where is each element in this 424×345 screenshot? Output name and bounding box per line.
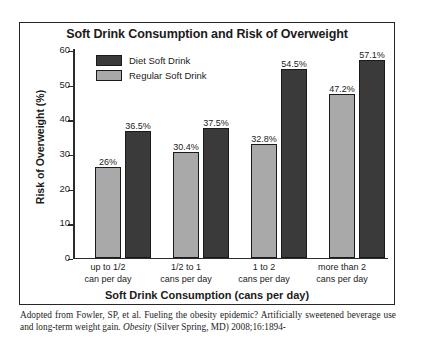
citation-line-1: Adopted from Fowler, SP, et al. Fueling … <box>20 310 344 320</box>
x-category-2: 1 to 2 cans per day <box>221 262 307 285</box>
bar-label-regular-2: 32.8% <box>251 134 277 144</box>
plot-area: 0 10 20 30 40 50 60 26% 36.5% 30.4% 37.5… <box>73 49 388 259</box>
x-axis-title: Soft Drink Consumption (cans per day) <box>20 289 394 301</box>
x-category-0-line1: up to 1/2 <box>65 262 151 274</box>
bar-diet-1[interactable]: 37.5% <box>203 128 229 258</box>
bar-regular-1[interactable]: 30.4% <box>173 152 199 257</box>
x-category-0-line2: can per day <box>65 274 151 286</box>
citation-journal-name: Obesity <box>123 322 151 332</box>
y-axis-line <box>73 49 75 259</box>
bar-diet-3[interactable]: 57.1% <box>359 60 385 258</box>
x-axis-line <box>73 258 388 260</box>
x-category-1: 1/2 to 1 cans per day <box>143 262 229 285</box>
bar-regular-3[interactable]: 47.2% <box>329 94 355 258</box>
source-citation: Adopted from Fowler, SP, et al. Fueling … <box>20 310 396 333</box>
bar-label-diet-0: 36.5% <box>125 121 151 131</box>
bar-label-diet-3: 57.1% <box>359 50 385 60</box>
x-category-3: more than 2 cans per day <box>299 262 385 285</box>
x-category-3-line2: cans per day <box>299 274 385 286</box>
x-category-1-line2: cans per day <box>143 274 229 286</box>
x-axis-category-labels: up to 1/2 can per day 1/2 to 1 cans per … <box>73 262 388 292</box>
citation-line-2-post: (Silver Spring, MD) 2008;16:1894- <box>151 322 286 332</box>
chart-title: Soft Drink Consumption and Risk of Overw… <box>20 27 394 41</box>
bar-regular-0[interactable]: 26% <box>95 167 121 257</box>
x-category-2-line1: 1 to 2 <box>221 262 307 274</box>
bar-label-regular-1: 30.4% <box>173 142 199 152</box>
bar-label-diet-2: 54.5% <box>281 59 307 69</box>
bar-label-regular-0: 26% <box>99 157 117 167</box>
y-axis-title: Risk of Overweight (%) <box>34 67 46 227</box>
bar-label-regular-3: 47.2% <box>329 84 355 94</box>
x-category-1-line1: 1/2 to 1 <box>143 262 229 274</box>
chart-container: Soft Drink Consumption and Risk of Overw… <box>19 22 395 305</box>
x-category-2-line2: cans per day <box>221 274 307 286</box>
x-category-3-line1: more than 2 <box>299 262 385 274</box>
bar-diet-0[interactable]: 36.5% <box>125 131 151 258</box>
bar-regular-2[interactable]: 32.8% <box>251 144 277 258</box>
bar-label-diet-1: 37.5% <box>203 118 229 128</box>
bar-diet-2[interactable]: 54.5% <box>281 69 307 258</box>
x-category-0: up to 1/2 can per day <box>65 262 151 285</box>
